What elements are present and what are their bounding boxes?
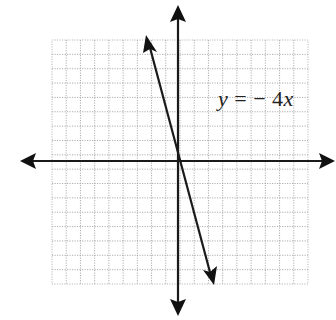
equation-coefficient: 4 [272,86,284,111]
equation-equals: = [234,86,247,111]
equation-label: y = − 4x [218,86,294,112]
equation-y: y [218,86,228,111]
equation-x: x [284,86,294,111]
equation-minus: − [253,86,266,111]
coordinate-plane [0,0,336,320]
